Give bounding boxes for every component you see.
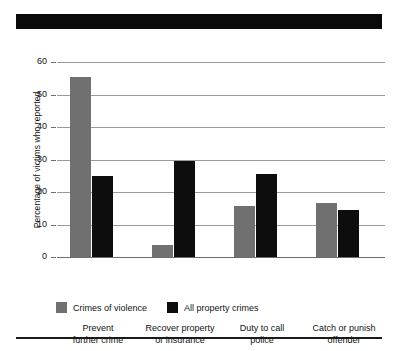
legend-item-property[interactable]: All property crimes (167, 302, 259, 313)
y-tick-mark-50 (51, 95, 56, 96)
bar-chart: Percentage of victims who reported 01020… (0, 0, 398, 351)
chart-legend: Crimes of violenceAll property crimes (56, 302, 259, 313)
y-tick-label-50: 50 (21, 90, 47, 99)
gridline-40 (57, 127, 385, 128)
bar-property-2 (256, 174, 277, 257)
bar-property-0 (92, 176, 113, 257)
y-tick-mark-30 (51, 160, 56, 161)
bar-property-1 (174, 161, 195, 257)
y-tick-mark-10 (51, 225, 56, 226)
plot-area: 0102030405060Preventfurther crimeRecover… (57, 62, 385, 257)
y-tick-label-40: 40 (21, 122, 47, 131)
y-tick-label-30: 30 (21, 155, 47, 164)
x-axis-label-3: Catch or punishoffender (291, 323, 397, 346)
legend-swatch-icon (167, 302, 178, 313)
bar-violence-0 (70, 77, 91, 257)
bar-violence-3 (316, 203, 337, 257)
redacted-title-bar (16, 14, 382, 29)
bar-property-3 (338, 210, 359, 257)
y-tick-label-60: 60 (21, 57, 47, 66)
bottom-divider (16, 337, 382, 339)
legend-swatch-icon (56, 302, 67, 313)
y-tick-mark-60 (51, 62, 56, 63)
gridline-60 (57, 62, 385, 63)
y-tick-label-0: 0 (21, 252, 47, 261)
legend-label: Crimes of violence (73, 303, 147, 313)
bar-violence-2 (234, 206, 255, 257)
legend-item-violence[interactable]: Crimes of violence (56, 302, 147, 313)
gridline-0 (57, 257, 385, 258)
y-tick-mark-0 (51, 257, 56, 258)
y-tick-label-10: 10 (21, 220, 47, 229)
x-axis-label-line: Catch or punish (291, 323, 397, 335)
y-tick-mark-40 (51, 127, 56, 128)
bar-violence-1 (152, 245, 173, 257)
gridline-30 (57, 160, 385, 161)
gridline-50 (57, 95, 385, 96)
y-tick-label-20: 20 (21, 187, 47, 196)
legend-label: All property crimes (184, 303, 259, 313)
y-tick-mark-20 (51, 192, 56, 193)
